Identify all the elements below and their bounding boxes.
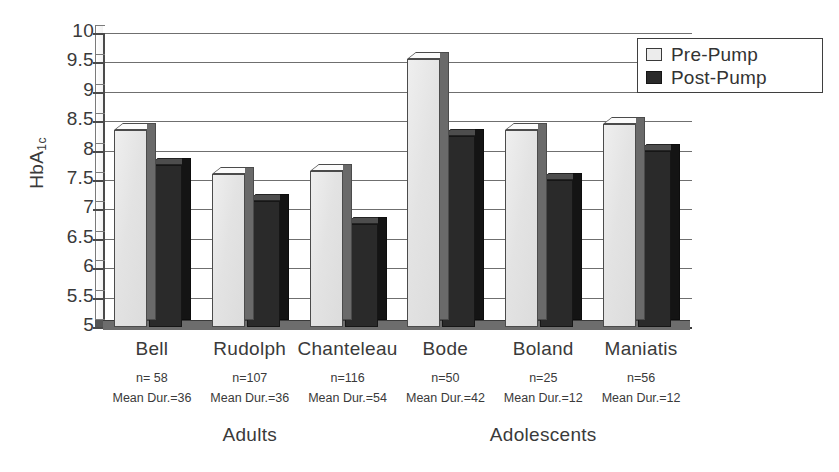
x-axis-sample-size-label: n=56 <box>541 371 741 385</box>
group-label: Adolescents <box>393 424 693 446</box>
legend-label-pre-pump: Pre-Pump <box>671 44 758 66</box>
bar-pre-pump <box>114 130 147 327</box>
bar-pre-pump <box>212 174 245 327</box>
y-axis-tick-label: 5.5 <box>34 285 94 307</box>
light-square-swatch-icon <box>646 48 662 61</box>
bar-side-face <box>147 123 156 320</box>
bar-side-face <box>573 173 582 320</box>
y-axis-tick-inner <box>96 25 105 26</box>
legend-item-pre-pump: Pre-Pump <box>646 43 814 66</box>
y-axis-tick-label: 6.5 <box>34 226 94 248</box>
group-label: Adults <box>100 424 400 446</box>
legend-label-post-pump: Post-Pump <box>671 67 767 89</box>
bars-layer <box>103 33 690 327</box>
y-axis-tick-label: 10 <box>34 20 94 42</box>
bar-front-face <box>310 171 343 327</box>
bar-pre-pump <box>407 59 440 327</box>
bar-side-face <box>182 158 191 320</box>
dark-square-swatch-icon <box>646 71 662 84</box>
y-axis-tick-label: 6 <box>34 255 94 277</box>
y-axis-tick-label: 8 <box>34 138 94 160</box>
x-axis-mean-duration-label: Mean Dur.=12 <box>541 391 741 405</box>
bar-front-face <box>212 174 245 327</box>
chart-legend: Pre-Pump Post-Pump <box>637 38 823 93</box>
y-axis-tick-label: 8.5 <box>34 108 94 130</box>
plot-left-wall <box>95 25 103 327</box>
bar-pre-pump <box>310 171 343 327</box>
x-axis-category-label: Maniatis <box>541 338 741 360</box>
bar-side-face <box>378 217 387 320</box>
bar-side-face <box>538 123 547 320</box>
bar-front-face <box>114 130 147 327</box>
bar-side-face <box>280 194 289 320</box>
bar-front-face <box>407 59 440 327</box>
y-axis-tick-label: 9 <box>34 79 94 101</box>
y-axis-tick-label: 5 <box>34 314 94 336</box>
y-axis-tick-label: 9.5 <box>34 49 94 71</box>
y-axis-tick-label: 7.5 <box>34 167 94 189</box>
bar-side-face <box>671 144 680 320</box>
bar-side-face <box>343 164 352 320</box>
bar-front-face <box>505 130 538 327</box>
bar-side-face <box>245 167 254 320</box>
bar-front-face <box>603 124 636 327</box>
bar-side-face <box>636 117 645 320</box>
bar-pre-pump <box>603 124 636 327</box>
bar-side-face <box>475 129 484 320</box>
bar-pre-pump <box>505 130 538 327</box>
y-axis-tick-label: 7 <box>34 196 94 218</box>
bar-side-face <box>440 52 449 320</box>
legend-item-post-pump: Post-Pump <box>646 66 814 89</box>
bar-chart: HbA1c Pre-Pump Post-Pump 109.598.587.576… <box>0 0 839 472</box>
